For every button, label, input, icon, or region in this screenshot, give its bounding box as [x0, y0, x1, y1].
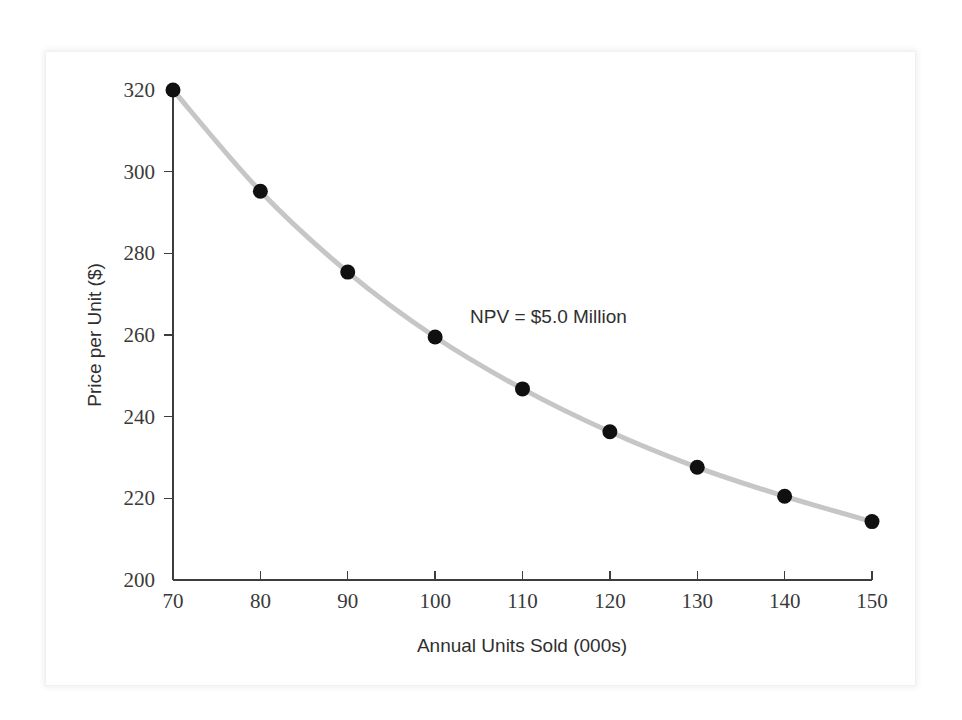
- x-tick-label: 130: [682, 589, 714, 613]
- data-point-marker: [777, 489, 792, 504]
- y-axis-title: Price per Unit ($): [84, 263, 105, 407]
- x-tick-label: 90: [337, 589, 358, 613]
- x-tick-label: 80: [250, 589, 271, 613]
- data-point-marker: [515, 381, 530, 396]
- data-point-marker: [602, 424, 617, 439]
- x-tick-label: 140: [769, 589, 801, 613]
- x-tick-label: 110: [507, 589, 538, 613]
- y-tick-label: 240: [124, 405, 156, 429]
- y-axis-ticks: 200220240260280300320: [124, 78, 174, 592]
- x-tick-label: 100: [419, 589, 451, 613]
- x-axis-ticks: 708090100110120130140150: [163, 571, 888, 613]
- x-tick-label: 70: [163, 589, 184, 613]
- annotation-npv-label: NPV = $5.0 Million: [470, 306, 627, 327]
- axes: [173, 90, 872, 580]
- y-tick-label: 300: [124, 160, 156, 184]
- x-tick-label: 150: [856, 589, 888, 613]
- data-point-marker: [166, 83, 181, 98]
- data-point-marker: [340, 265, 355, 280]
- x-axis-title: Annual Units Sold (000s): [417, 635, 627, 656]
- data-point-marker: [253, 184, 268, 199]
- y-tick-label: 260: [124, 323, 156, 347]
- data-point-marker: [690, 460, 705, 475]
- data-point-marker: [865, 514, 880, 529]
- y-tick-label: 280: [124, 241, 156, 265]
- y-tick-label: 220: [124, 486, 156, 510]
- y-tick-label: 320: [124, 78, 156, 102]
- x-tick-label: 120: [594, 589, 626, 613]
- figure-root: 200220240260280300320 708090100110120130…: [0, 0, 962, 720]
- y-tick-label: 200: [124, 568, 156, 592]
- data-point-marker: [428, 330, 443, 345]
- line-chart: 200220240260280300320 708090100110120130…: [0, 0, 962, 720]
